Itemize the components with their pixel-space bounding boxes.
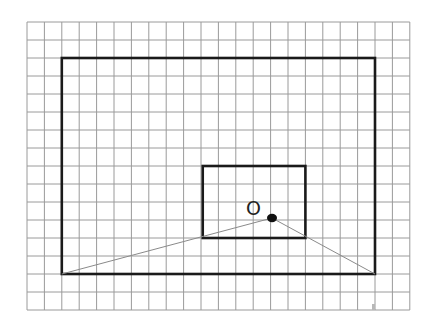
smudge-mark [372,304,375,310]
point-o-dot [267,214,277,222]
segment-o-to-bottom-right [272,218,375,274]
grid-diagram: O [0,0,431,329]
segment-bottom-left-to-o [62,218,272,274]
point-o-label: O [246,197,261,219]
